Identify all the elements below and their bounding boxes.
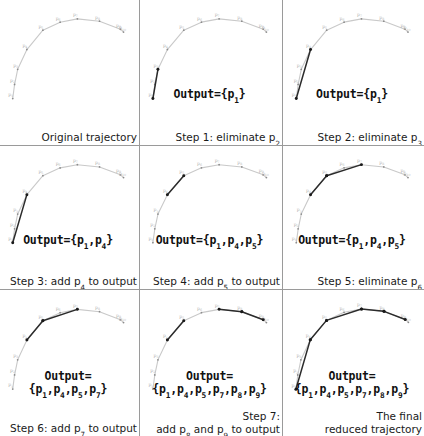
- svg-text:p5: p5: [322, 314, 327, 320]
- panel-1-plot: p1p2p3p4p5p6p7p8p9p10: [0, 0, 139, 145]
- svg-text:p8: p8: [95, 160, 100, 166]
- panel-9-caption: The finalreduced trajectory: [283, 410, 422, 435]
- svg-text:p2: p2: [294, 78, 299, 84]
- svg-text:p5: p5: [322, 169, 327, 175]
- panel-1-caption: Original trajectory: [0, 131, 137, 143]
- svg-text:p5: p5: [38, 169, 43, 175]
- panel-3-plot: p1p2p3p4p5p6p7p8p9p10: [283, 0, 424, 145]
- svg-text:p9: p9: [116, 168, 121, 174]
- panel-6-plot: p1p2p3p4p5p6p7p8p9p10: [283, 146, 424, 289]
- svg-text:p4: p4: [306, 188, 311, 194]
- svg-text:p7: p7: [73, 158, 78, 164]
- panel-7-plot: p1p2p3p4p5p6p7p8p9p10: [0, 290, 139, 436]
- panel-step-4: p1p2p3p4p5p6p7p8p9p10 Output={p1,p4,p5} …: [140, 146, 283, 290]
- svg-text:p10: p10: [262, 316, 269, 322]
- svg-text:p4: p4: [163, 43, 168, 49]
- svg-text:p8: p8: [237, 15, 242, 21]
- svg-text:p2: p2: [150, 222, 155, 228]
- svg-text:p4: p4: [306, 333, 311, 339]
- svg-text:p3: p3: [296, 353, 301, 359]
- svg-text:p9: p9: [400, 168, 405, 174]
- svg-text:p3: p3: [153, 63, 158, 69]
- svg-text:p4: p4: [306, 43, 311, 49]
- panel-original-trajectory: p1p2p3p4p5p6p7p8p9p10 Original trajector…: [0, 0, 140, 146]
- svg-text:p3: p3: [13, 207, 18, 213]
- svg-text:p8: p8: [380, 305, 385, 311]
- svg-text:p6: p6: [197, 306, 202, 312]
- svg-text:p10: p10: [404, 25, 411, 31]
- panel-final-reduced-trajectory: p1p2p3p4p5p6p7p8p9p10 Output={p1,p4,p5,p…: [283, 290, 424, 436]
- svg-text:p8: p8: [379, 15, 384, 21]
- panel-7-output: Output={p1,p4,p5,p7}: [0, 370, 136, 396]
- panel-8-caption: Step 7:add p8 and p9 to output: [140, 410, 280, 435]
- panel-5-output: Output={p1,p4,p5}: [140, 234, 279, 247]
- panel-7-caption: Step 6: add p7 to output: [0, 422, 137, 434]
- panel-8-output: Output={p1,p4,p5,p7,p8,p9}: [140, 370, 279, 396]
- panel-2-plot: p1p2p3p4p5p6p7p8p9p10: [140, 0, 282, 145]
- svg-text:p2: p2: [10, 78, 15, 84]
- svg-text:p9: p9: [259, 168, 264, 174]
- svg-text:p3: p3: [297, 63, 302, 69]
- panel-4-output: Output={p1,p4}: [0, 234, 136, 247]
- svg-text:p6: p6: [56, 16, 61, 22]
- svg-text:p9: p9: [401, 313, 406, 319]
- svg-text:p7: p7: [215, 303, 220, 309]
- svg-text:p5: p5: [179, 314, 184, 320]
- panel-4-plot: p1p2p3p4p5p6p7p8p9p10: [0, 146, 139, 289]
- panel-step-2: p1p2p3p4p5p6p7p8p9p10 Output={p1} Step 2…: [283, 0, 424, 146]
- svg-text:p1: p1: [8, 92, 13, 98]
- panel-step-1: p1p2p3p4p5p6p7p8p9p10 Output={p1} Step 1…: [140, 0, 283, 146]
- panel-step-5: p1p2p3p4p5p6p7p8p9p10 Output={p1,p4,p5} …: [283, 146, 424, 290]
- svg-text:p7: p7: [73, 12, 78, 18]
- svg-text:p8: p8: [237, 305, 242, 311]
- svg-text:p5: p5: [322, 24, 327, 30]
- panel-9-output: Output={p1,p4,p5,p7,p8,p9}: [283, 370, 421, 396]
- panel-step-3: p1p2p3p4p5p6p7p8p9p10 Output={p1,p4} Ste…: [0, 146, 140, 290]
- svg-text:p10: p10: [119, 171, 126, 177]
- svg-text:p3: p3: [297, 207, 302, 213]
- panel-6-caption: Step 5: eliminate p6: [283, 275, 422, 287]
- panel-5-plot: p1p2p3p4p5p6p7p8p9p10: [140, 146, 282, 289]
- svg-text:p6: p6: [56, 161, 61, 167]
- panel-3-output: Output={p1}: [283, 88, 421, 101]
- svg-text:p8: p8: [379, 160, 384, 166]
- svg-text:p3: p3: [153, 207, 158, 213]
- svg-text:p4: p4: [22, 43, 27, 49]
- svg-text:p4: p4: [163, 333, 168, 339]
- svg-text:p9: p9: [259, 23, 264, 29]
- panel-step-6: p1p2p3p4p5p6p7p8p9p10 Output={p1,p4,p5,p…: [0, 290, 140, 436]
- svg-text:p4: p4: [163, 188, 168, 194]
- svg-text:p10: p10: [119, 25, 126, 31]
- svg-text:p10: p10: [262, 171, 269, 177]
- svg-text:p9: p9: [116, 313, 121, 319]
- svg-text:p8: p8: [237, 160, 242, 166]
- svg-text:p2: p2: [10, 222, 15, 228]
- svg-text:p8: p8: [95, 15, 100, 21]
- svg-text:p7: p7: [215, 158, 220, 164]
- svg-text:p6: p6: [340, 306, 345, 312]
- svg-text:p6: p6: [340, 161, 345, 167]
- svg-text:p9: p9: [259, 313, 264, 319]
- svg-text:p6: p6: [197, 161, 202, 167]
- svg-text:p7: p7: [357, 158, 362, 164]
- svg-text:p5: p5: [38, 24, 43, 30]
- svg-text:p10: p10: [262, 25, 269, 31]
- svg-text:p7: p7: [357, 12, 362, 18]
- panel-3-caption: Step 2: eliminate p3: [283, 131, 422, 143]
- panel-6-output: Output={p1,p4,p5}: [283, 234, 421, 247]
- svg-text:p5: p5: [179, 24, 184, 30]
- svg-text:p2: p2: [294, 222, 299, 228]
- panel-step-7: p1p2p3p4p5p6p7p8p9p10 Output={p1,p4,p5,p…: [140, 290, 283, 436]
- panel-5-caption: Step 4: add p5 to output: [140, 275, 280, 287]
- svg-text:p6: p6: [197, 16, 202, 22]
- panel-4-caption: Step 3: add p4 to output: [0, 275, 137, 287]
- svg-text:p4: p4: [22, 188, 27, 194]
- svg-text:p8: p8: [95, 305, 100, 311]
- svg-text:p7: p7: [357, 302, 362, 308]
- svg-text:p6: p6: [340, 16, 345, 22]
- svg-text:p6: p6: [56, 306, 61, 312]
- svg-text:p3: p3: [13, 353, 18, 359]
- panel-2-caption: Step 1: eliminate p2: [140, 131, 280, 143]
- svg-text:p10: p10: [404, 316, 411, 322]
- svg-text:p7: p7: [73, 303, 78, 309]
